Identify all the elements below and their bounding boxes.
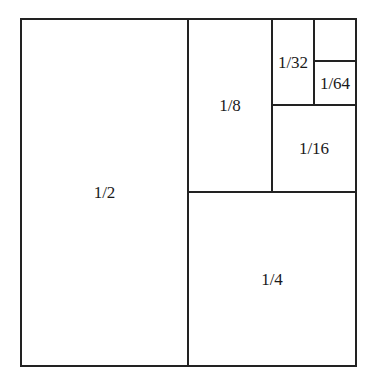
region-thirty-second: 1/32 [273, 20, 313, 104]
geometric-series-square-diagram: 1/2 1/4 1/8 1/16 1/32 1/64 [0, 0, 378, 383]
label-eighth: 1/8 [219, 97, 241, 114]
region-sixteenth: 1/16 [273, 106, 355, 191]
region-half: 1/2 [22, 20, 187, 365]
region-eighth: 1/8 [189, 20, 271, 191]
label-thirty-second: 1/32 [278, 54, 308, 71]
region-remainder [315, 20, 355, 60]
region-quarter: 1/4 [189, 193, 355, 365]
label-quarter: 1/4 [261, 271, 283, 288]
label-half: 1/2 [94, 184, 116, 201]
region-sixty-fourth: 1/64 [315, 62, 355, 104]
label-sixty-fourth: 1/64 [320, 75, 350, 92]
label-sixteenth: 1/16 [299, 140, 329, 157]
